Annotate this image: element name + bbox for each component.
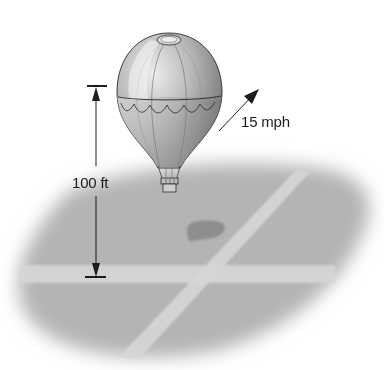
speed-label: 15 mph [241,113,290,130]
balloon-basket [161,178,178,192]
balloon-diagram [0,0,384,370]
horizontal-road [20,265,335,283]
height-label: 100 ft [72,174,108,191]
up-arrowhead-icon [92,87,100,101]
ground-field [18,164,369,358]
